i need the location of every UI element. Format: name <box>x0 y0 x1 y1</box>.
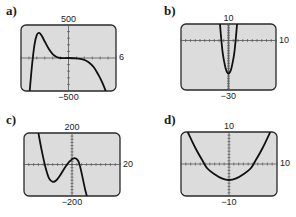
graph-screen <box>0 0 296 217</box>
axis-label-right: 10 <box>280 158 290 168</box>
axis-label-top: 10 <box>224 121 234 131</box>
axis-label-bottom: −10 <box>221 197 236 207</box>
